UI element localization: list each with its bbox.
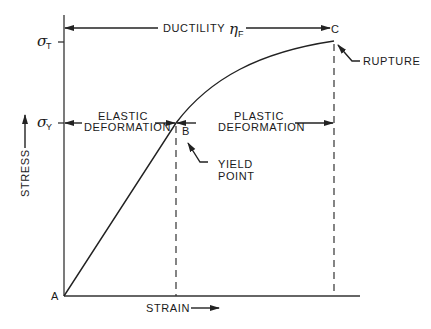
rupture-label: RUPTURE (363, 55, 420, 67)
point-a-label: A (51, 290, 59, 302)
y-axis-label: STRESS (19, 149, 31, 197)
point-b-label: B (182, 125, 190, 137)
ductility-symbol: η (229, 20, 238, 38)
yield-label-line2: POINT (218, 170, 255, 182)
stress-strain-diagram: DUCTILITY η F C RUPTURE σ T σ Y ELASTIC … (0, 0, 431, 329)
x-axis-label: STRAIN (146, 302, 190, 314)
sigma-y-subscript: Y (46, 122, 52, 132)
elastic-label-line2: DEFORMATION (84, 121, 171, 133)
point-c-label: C (331, 23, 340, 35)
yield-leader-arrow (188, 143, 208, 162)
ductility-label: DUCTILITY (163, 22, 225, 34)
rupture-leader-arrow (338, 45, 360, 61)
ductility-subscript: F (238, 29, 244, 39)
sigma-t-subscript: T (46, 41, 52, 51)
stress-strain-curve (64, 41, 334, 296)
yield-label-line1: YIELD (218, 158, 253, 170)
plastic-label-line2: DEFORMATION (218, 121, 305, 133)
